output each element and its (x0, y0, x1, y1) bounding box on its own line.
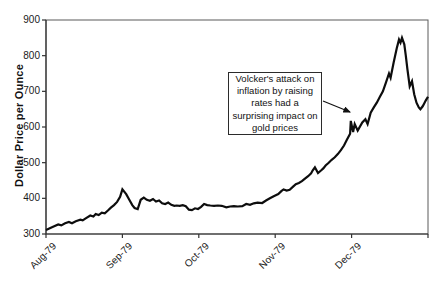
annotation-callout: Volcker's attack on inflation by raising… (228, 72, 322, 135)
y-tick-label: 400 (10, 193, 40, 203)
y-tick-label: 300 (10, 229, 40, 239)
y-tick-label: 600 (10, 122, 40, 132)
chart-canvas (0, 0, 436, 282)
y-tick-label: 700 (10, 86, 40, 96)
y-tick-label: 800 (10, 51, 40, 61)
gold-price-chart: Dollar Price per Ounce Volcker's attack … (0, 0, 436, 282)
annotation-arrow (323, 101, 350, 112)
y-tick-label: 900 (10, 15, 40, 25)
y-tick-label: 500 (10, 158, 40, 168)
